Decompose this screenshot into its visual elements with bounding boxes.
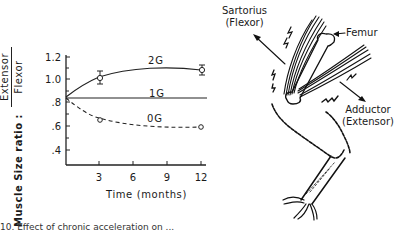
x-tick-label-3: 3 [96,172,102,183]
leg-shank [272,104,344,158]
line-chart [0,0,401,231]
y-tick-label-1.2: 1.2 [45,52,61,63]
sartorius-label: Sartorius (Flexor) [222,5,267,29]
x-tick-label-6: 6 [130,172,136,183]
series-0g-point-3mo [98,118,103,123]
series-label-0g: 0G [147,113,163,124]
series-0g-point-12mo [199,125,204,130]
sartorius-name: Sartorius [222,5,267,17]
x-axis-label: Time (months) [106,189,187,200]
femur-label: Femur [346,27,378,39]
series-label-2g: 2G [148,55,164,66]
series-2g-line [66,68,201,97]
adductor-label: Adductor (Extensor) [342,104,394,128]
series-0g-line [66,98,199,127]
adductor-arrow-line [340,82,363,100]
y-tick-label-1.0: 1.0 [45,74,61,85]
femur-bone [286,33,335,104]
y-tick-label-0.6: .6 [51,121,61,132]
series-2g-point-3mo [97,71,103,84]
y-tick-label-0.8: .8 [51,97,61,108]
adductor-role: (Extensor) [342,116,394,128]
sartorius-arrow-line [256,37,285,64]
x-tick-label-9: 9 [164,172,170,183]
leg-toes [283,197,317,220]
figure-caption-partial: 10. Effect of chronic acceleration on ..… [0,222,174,231]
leg-tarsus [301,156,345,204]
x-tick-label-12: 12 [195,172,208,183]
sartorius-role: (Flexor) [222,17,267,29]
y-tick-label-0.4: .4 [51,145,61,156]
series-2g-point-12mo [199,65,205,75]
adductor-name: Adductor [342,104,394,116]
series-label-1g: 1G [149,88,165,99]
